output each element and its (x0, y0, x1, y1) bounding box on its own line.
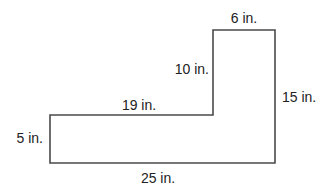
label-inner-horizontal: 19 in. (122, 97, 156, 113)
label-inner-vertical: 10 in. (175, 61, 209, 77)
l-shape-diagram: 6 in. 10 in. 15 in. 19 in. 5 in. 25 in. (0, 0, 334, 191)
label-left-height: 5 in. (17, 130, 43, 146)
label-right-height: 15 in. (282, 89, 316, 105)
label-bottom-width: 25 in. (141, 170, 175, 186)
label-top-width: 6 in. (231, 10, 257, 26)
l-shape-outline (50, 30, 275, 163)
